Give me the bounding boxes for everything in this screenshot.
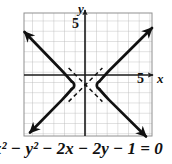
y-axis-label: y bbox=[78, 2, 84, 15]
x-axis-label: x bbox=[157, 72, 164, 85]
equation-caption: x² − y² − 2x − 2y − 1 = 0 bbox=[0, 138, 172, 164]
x-axis-tick-5: 5 bbox=[137, 72, 144, 86]
equation-text: x² − y² − 2x − 2y − 1 = 0 bbox=[0, 139, 163, 159]
y-axis-tick-5: 5 bbox=[72, 17, 79, 31]
hyperbola-figure: y x 5 5 x² − y² − 2x − 2y − 1 = 0 bbox=[0, 0, 172, 164]
